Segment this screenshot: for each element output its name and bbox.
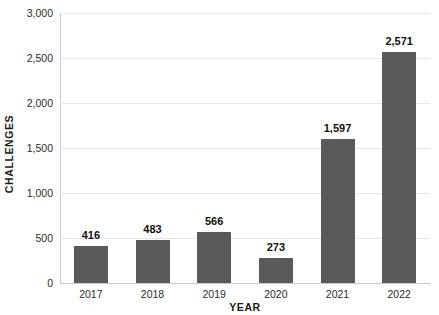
x-tick-label: 2020: [246, 288, 306, 300]
y-tick-label: 500: [0, 232, 58, 244]
bar-chart: CHALLENGES 05001,0001,5002,0002,5003,000…: [0, 0, 439, 315]
bar-2022[interactable]: [382, 52, 416, 283]
y-tick-label: 1,000: [0, 187, 58, 199]
x-tick-label: 2018: [123, 288, 183, 300]
gridline: [60, 148, 430, 149]
bar-value-label: 2,571: [369, 35, 429, 47]
x-tick-label: 2017: [61, 288, 121, 300]
x-tick-label: 2022: [369, 288, 429, 300]
bar-value-label: 566: [184, 215, 244, 227]
y-tick-label: 3,000: [0, 7, 58, 19]
y-tick-label: 2,000: [0, 97, 58, 109]
bar-2021[interactable]: [321, 139, 355, 283]
gridline: [60, 283, 430, 284]
bar-2018[interactable]: [136, 240, 170, 283]
x-axis-title: YEAR: [60, 301, 430, 313]
x-tick-label: 2021: [308, 288, 368, 300]
bar-2020[interactable]: [259, 258, 293, 283]
x-tick-label: 2019: [184, 288, 244, 300]
gridline: [60, 13, 430, 14]
bar-2019[interactable]: [197, 232, 231, 283]
bar-2017[interactable]: [74, 246, 108, 283]
y-tick-label: 2,500: [0, 52, 58, 64]
bar-value-label: 483: [123, 223, 183, 235]
y-tick-label: 0: [0, 277, 58, 289]
gridline: [60, 58, 430, 59]
bar-value-label: 273: [246, 241, 306, 253]
y-axis-tick-labels: 05001,0001,5002,0002,5003,000: [0, 0, 58, 315]
gridline: [60, 193, 430, 194]
gridline: [60, 103, 430, 104]
bar-value-label: 1,597: [308, 122, 368, 134]
y-tick-label: 1,500: [0, 142, 58, 154]
bar-value-label: 416: [61, 229, 121, 241]
